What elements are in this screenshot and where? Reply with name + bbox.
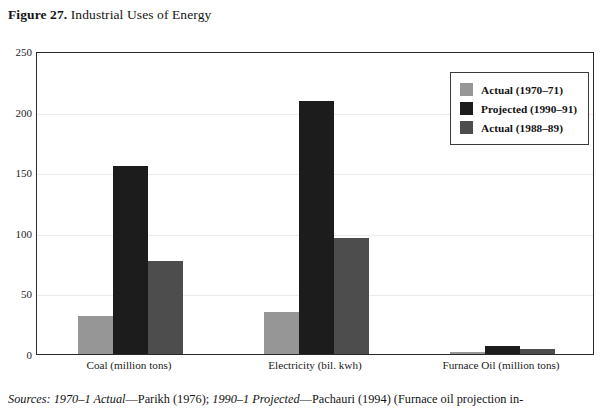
source-dash-1: —Parikh (1976); [126,392,213,406]
legend: Actual (1970–71)Projected (1990–91)Actua… [450,72,589,145]
bar [520,349,555,354]
figure-number: Figure 27. [8,7,67,22]
source-note: Sources: 1970–1 Actual—Parikh (1976); 19… [8,392,608,407]
bar-chart: 050100150200250 Coal (million tons)Elect… [0,40,612,370]
bar [450,352,485,354]
bar [78,316,113,354]
source-dash-2: —Pachauri (1994) (Furnace oil projection… [300,392,524,406]
bar [113,166,148,354]
bar [264,312,299,354]
legend-swatch-icon [460,83,473,96]
legend-item: Actual (1988–89) [460,118,577,137]
bar [334,238,369,354]
legend-item: Actual (1970–71) [460,80,577,99]
y-axis-tick-label: 250 [2,46,32,58]
x-axis-group-label: Electricity (bil. kwh) [268,359,362,371]
legend-swatch-icon [460,102,473,115]
y-axis-tick-label: 50 [2,288,32,300]
legend-label: Projected (1990–91) [481,103,577,115]
x-axis-group-label: Coal (million tons) [86,359,171,371]
legend-swatch-icon [460,121,473,134]
y-axis-tick-label: 200 [2,107,32,119]
y-axis-tick-label: 100 [2,228,32,240]
legend-label: Actual (1988–89) [481,122,563,134]
x-axis-group-label: Furnace Oil (million tons) [442,359,559,371]
bar [485,346,520,354]
y-axis-tick-label: 150 [2,167,32,179]
source-lead: Sources: 1970–1 Actual [8,392,126,406]
legend-item: Projected (1990–91) [460,99,577,118]
page-title: Figure 27. Industrial Uses of Energy [8,7,211,23]
legend-label: Actual (1970–71) [481,84,563,96]
y-axis: 050100150200250 [0,52,32,355]
bar [148,261,183,354]
bar [299,101,334,354]
y-axis-tick-label: 0 [2,349,32,361]
source-mid: 1990–1 Projected [212,392,299,406]
figure-title-text: Industrial Uses of Energy [71,7,212,22]
